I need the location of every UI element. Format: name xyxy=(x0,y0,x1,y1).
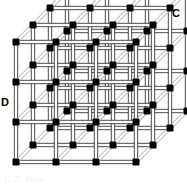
caption-strip: C. D. Hunt xyxy=(0,174,187,185)
caption-text: C. D. Hunt xyxy=(4,174,44,184)
lattice-bars xyxy=(14,0,187,164)
lattice-figure: C D C. D. Hunt xyxy=(0,0,187,185)
vertex-label-c: C xyxy=(172,8,180,19)
lattice-drawing xyxy=(0,0,187,185)
vertex-label-d: D xyxy=(1,97,9,108)
